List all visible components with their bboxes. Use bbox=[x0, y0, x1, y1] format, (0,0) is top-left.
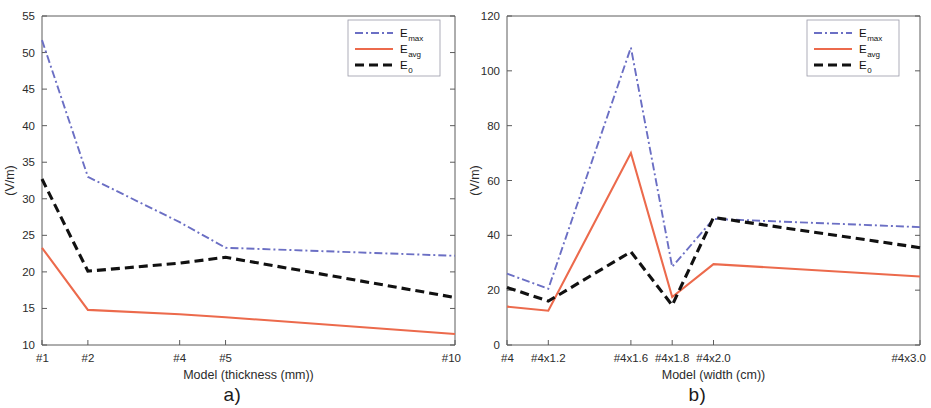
y-tick-label: 60 bbox=[487, 175, 500, 187]
x-tick-label: #1 bbox=[36, 352, 49, 364]
x-axis-title: Model (thickness (mm)) bbox=[183, 368, 314, 382]
y-tick-label: 35 bbox=[22, 156, 35, 168]
x-tick-label: #4 bbox=[173, 352, 186, 364]
y-tick-label: 10 bbox=[22, 339, 35, 351]
series-line-e-avg bbox=[507, 153, 920, 311]
y-tick-label: 25 bbox=[22, 229, 35, 241]
x-tick-label: #4x3.0 bbox=[891, 352, 926, 364]
y-tick-label: 20 bbox=[22, 266, 35, 278]
y-tick-label: 15 bbox=[22, 302, 35, 314]
x-tick-label: #4x1.2 bbox=[531, 352, 566, 364]
chart-a: 10152025303540455055#1#2#4#5#10Model (th… bbox=[0, 0, 465, 408]
y-tick-label: 0 bbox=[494, 339, 500, 351]
x-tick-label: #4x1.8 bbox=[655, 352, 690, 364]
x-tick-label: #5 bbox=[219, 352, 232, 364]
chart-b: 020406080100120#4#4x1.2#4x1.6#4x1.8#4x2.… bbox=[465, 0, 930, 408]
panel-b-caption: b) bbox=[465, 384, 930, 406]
y-tick-label: 20 bbox=[487, 284, 500, 296]
figure-container: 10152025303540455055#1#2#4#5#10Model (th… bbox=[0, 0, 931, 408]
y-tick-label: 45 bbox=[22, 83, 35, 95]
y-tick-label: 30 bbox=[22, 193, 35, 205]
y-tick-label: 40 bbox=[22, 120, 35, 132]
y-tick-label: 100 bbox=[481, 65, 500, 77]
x-tick-label: #4x2.0 bbox=[696, 352, 731, 364]
y-tick-label: 120 bbox=[481, 10, 500, 22]
panel-a: 10152025303540455055#1#2#4#5#10Model (th… bbox=[0, 0, 465, 408]
x-tick-label: #2 bbox=[81, 352, 94, 364]
series-line-e-0 bbox=[507, 218, 920, 306]
series-line-e-0 bbox=[42, 179, 455, 297]
y-tick-label: 40 bbox=[487, 229, 500, 241]
x-tick-label: #4x1.6 bbox=[614, 352, 649, 364]
y-axis-title: (V/m) bbox=[468, 165, 482, 196]
y-tick-label: 80 bbox=[487, 120, 500, 132]
panel-a-caption: a) bbox=[0, 384, 465, 406]
series-line-e-max bbox=[507, 48, 920, 289]
y-tick-label: 50 bbox=[22, 47, 35, 59]
series-line-e-avg bbox=[42, 248, 455, 334]
panel-b: 020406080100120#4#4x1.2#4x1.6#4x1.8#4x2.… bbox=[465, 0, 930, 408]
x-axis-title: Model (width (cm)) bbox=[662, 368, 766, 382]
y-tick-label: 55 bbox=[22, 10, 35, 22]
x-tick-label: #4 bbox=[501, 352, 514, 364]
x-tick-label: #10 bbox=[442, 352, 461, 364]
y-axis-title: (V/m) bbox=[3, 165, 17, 196]
